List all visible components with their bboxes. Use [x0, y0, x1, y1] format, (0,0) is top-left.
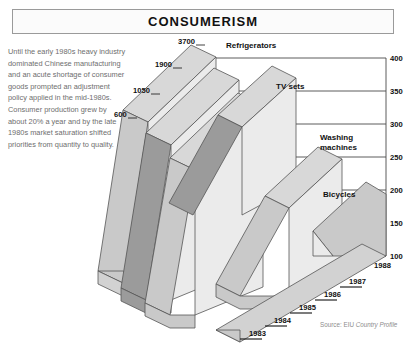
- axis-tick-300: 300: [390, 120, 403, 129]
- figure-root: CONSUMERISM Until the early 1980s heavy …: [0, 0, 407, 348]
- year-label-1983: 1983: [249, 329, 266, 338]
- year-label-1985: 1985: [299, 303, 316, 312]
- axis-tick-400: 400: [390, 54, 403, 63]
- value-label-tv-sets: 1900: [155, 60, 172, 69]
- source-note: Source: EIU Country Profile: [320, 321, 397, 328]
- series-label-bicycles: Bicycles: [323, 190, 355, 200]
- value-label-refrigerators: 3700: [178, 37, 195, 46]
- series-label-washing-machines-line2: machines: [320, 143, 357, 153]
- year-label-1987: 1987: [349, 277, 366, 286]
- year-label-1986: 1986: [324, 290, 341, 299]
- axis-tick-350: 350: [390, 87, 403, 96]
- value-label-washing-machines: 1050: [133, 86, 150, 95]
- series-label-washing-machines: Washing machines: [320, 133, 357, 152]
- year-label-1984: 1984: [274, 316, 291, 325]
- axis-tick-200: 200: [390, 186, 403, 195]
- series-label-refrigerators: Refrigerators: [226, 41, 276, 51]
- chart-stage: [0, 0, 407, 348]
- chart-svg: [0, 0, 407, 348]
- source-prefix: Source: EIU: [320, 321, 356, 328]
- source-publication: Country Profile: [356, 321, 398, 328]
- series-label-washing-machines-line1: Washing: [320, 133, 357, 143]
- year-label-1988: 1988: [374, 261, 391, 270]
- value-label-bicycles: 600: [114, 110, 127, 119]
- axis-tick-100: 100: [390, 252, 403, 261]
- axis-tick-150: 150: [390, 219, 403, 228]
- series-label-tv-sets: TV sets: [276, 82, 304, 92]
- axis-tick-250: 250: [390, 153, 403, 162]
